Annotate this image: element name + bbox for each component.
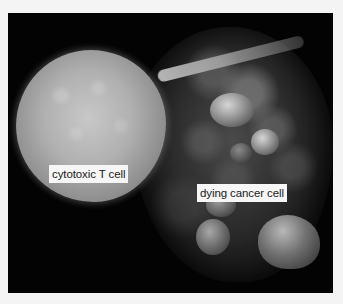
- t-cell-label: cytotoxic T cell: [49, 165, 128, 183]
- cell-bleb: [258, 215, 320, 269]
- cell-bleb: [251, 129, 279, 155]
- cancer-cell-label: dying cancer cell: [197, 184, 287, 202]
- cell-bleb: [196, 219, 230, 255]
- cell-bleb: [210, 93, 254, 127]
- cell-bleb: [230, 143, 252, 163]
- micrograph-image: cytotoxic T cell dying cancer cell: [8, 13, 333, 293]
